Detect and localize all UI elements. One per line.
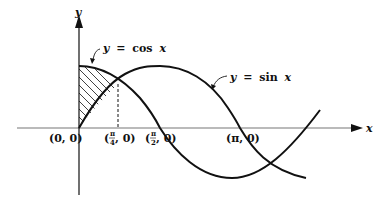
cosine-leader-arrow-icon bbox=[90, 58, 95, 64]
trig-area-diagram: x y y = cos x y = sin x (0, 0) bbox=[0, 0, 387, 208]
svg-text:y = cos x: y = cos x bbox=[102, 42, 166, 55]
svg-text:(: ( bbox=[104, 132, 109, 145]
cosine-leader-line bbox=[93, 49, 100, 60]
sine-leader-line bbox=[213, 76, 227, 87]
cosine-label: y = cos x bbox=[90, 42, 166, 64]
shaded-region bbox=[60, 34, 140, 194]
x-axis-arrow-icon bbox=[351, 124, 363, 132]
svg-text:, 0): , 0) bbox=[156, 132, 177, 145]
sine-label: y = sin x bbox=[211, 71, 292, 90]
y-axis: y bbox=[74, 6, 83, 195]
x-axis-label: x bbox=[365, 122, 373, 135]
pi-over-2-label: ( π 2 , 0) bbox=[145, 129, 177, 147]
svg-text:y = sin x: y = sin x bbox=[229, 71, 292, 84]
pi-label: (π, 0) bbox=[226, 132, 260, 145]
pi-over-4-label: ( π 4 , 0) bbox=[104, 129, 136, 147]
y-axis-label: y bbox=[74, 6, 83, 19]
svg-text:(: ( bbox=[145, 132, 150, 145]
svg-text:, 0): , 0) bbox=[115, 132, 136, 145]
origin-label: (0, 0) bbox=[49, 132, 82, 145]
